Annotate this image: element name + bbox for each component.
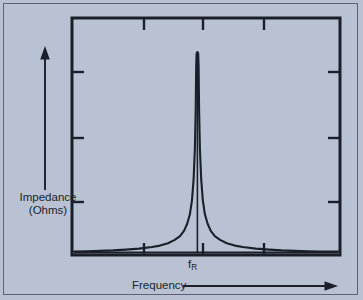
ticks-top [144,19,264,30]
xaxis-label: Frequency [132,279,186,292]
impedance-vs-frequency-chart [0,0,363,300]
yaxis-label-line2: (Ohms) [12,204,84,217]
yaxis-label-line1: Impedance [20,191,77,203]
resonance-subscript: R [191,263,197,272]
resonance-frequency-label: fR [188,258,197,272]
yaxis-arrow [40,46,50,190]
ticks-right [328,72,339,202]
yaxis-label: Impedance (Ohms) [12,191,84,217]
impedance-curve [74,52,338,252]
xaxis-arrow [183,281,338,291]
ticks-left [73,72,84,202]
figure-root: Impedance (Ohms) fR Frequency [0,0,363,300]
